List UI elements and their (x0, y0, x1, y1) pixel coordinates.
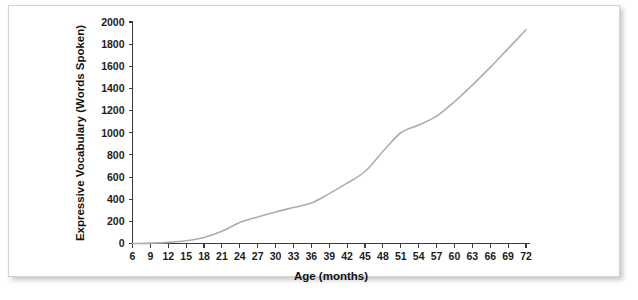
y-axis-tick-label: 200 (107, 215, 125, 227)
y-axis-tick-label: 1600 (101, 60, 125, 72)
x-axis-tick-label: 12 (162, 250, 174, 262)
x-axis-tick-label: 72 (520, 250, 532, 262)
y-axis-ticks: 0200400600800100012001400160018002000 (101, 16, 132, 250)
y-axis-tick-label: 400 (107, 193, 125, 205)
x-axis-ticks: 6912151821242730333639424548515457606366… (130, 244, 532, 262)
line-chart: 0200400600800100012001400160018002000 69… (0, 0, 638, 300)
x-axis-tick-label: 6 (130, 250, 136, 262)
figure-page: 0200400600800100012001400160018002000 69… (0, 0, 638, 300)
x-axis-tick-label: 60 (449, 250, 461, 262)
vocabulary-growth-line (133, 30, 527, 244)
x-axis-tick-label: 63 (466, 250, 478, 262)
x-axis-tick-label: 48 (377, 250, 389, 262)
x-axis-tick-label: 27 (252, 250, 264, 262)
x-axis-tick-label: 69 (502, 250, 514, 262)
x-axis-tick-label: 21 (216, 250, 228, 262)
x-axis-tick-label: 42 (341, 250, 353, 262)
x-axis-tick-label: 51 (395, 250, 407, 262)
y-axis-tick-label: 0 (119, 237, 125, 249)
y-axis-tick-label: 1200 (101, 104, 125, 116)
y-axis-tick-label: 1800 (101, 38, 125, 50)
x-axis-tick-label: 30 (270, 250, 282, 262)
x-axis-tick-label: 66 (484, 250, 496, 262)
x-axis-tick-label: 39 (323, 250, 335, 262)
y-axis-tick-label: 600 (107, 171, 125, 183)
y-axis-tick-label: 800 (107, 149, 125, 161)
x-axis-tick-label: 36 (306, 250, 318, 262)
y-axis-tick-label: 1400 (101, 82, 125, 94)
x-axis-title: Age (months) (294, 270, 368, 282)
x-axis-tick-label: 57 (431, 250, 443, 262)
x-axis-tick-label: 24 (234, 250, 246, 262)
x-axis-tick-label: 33 (288, 250, 300, 262)
y-axis-title: Expressive Vocabulary (Words Spoken) (74, 25, 86, 241)
y-axis-tick-label: 2000 (101, 16, 125, 28)
x-axis-tick-label: 54 (413, 250, 425, 262)
x-axis-tick-label: 45 (359, 250, 371, 262)
x-axis-tick-label: 18 (198, 250, 210, 262)
x-axis-tick-label: 9 (147, 250, 153, 262)
y-axis-tick-label: 1000 (101, 127, 125, 139)
x-axis-tick-label: 15 (180, 250, 192, 262)
chart-container: 0200400600800100012001400160018002000 69… (0, 0, 638, 300)
